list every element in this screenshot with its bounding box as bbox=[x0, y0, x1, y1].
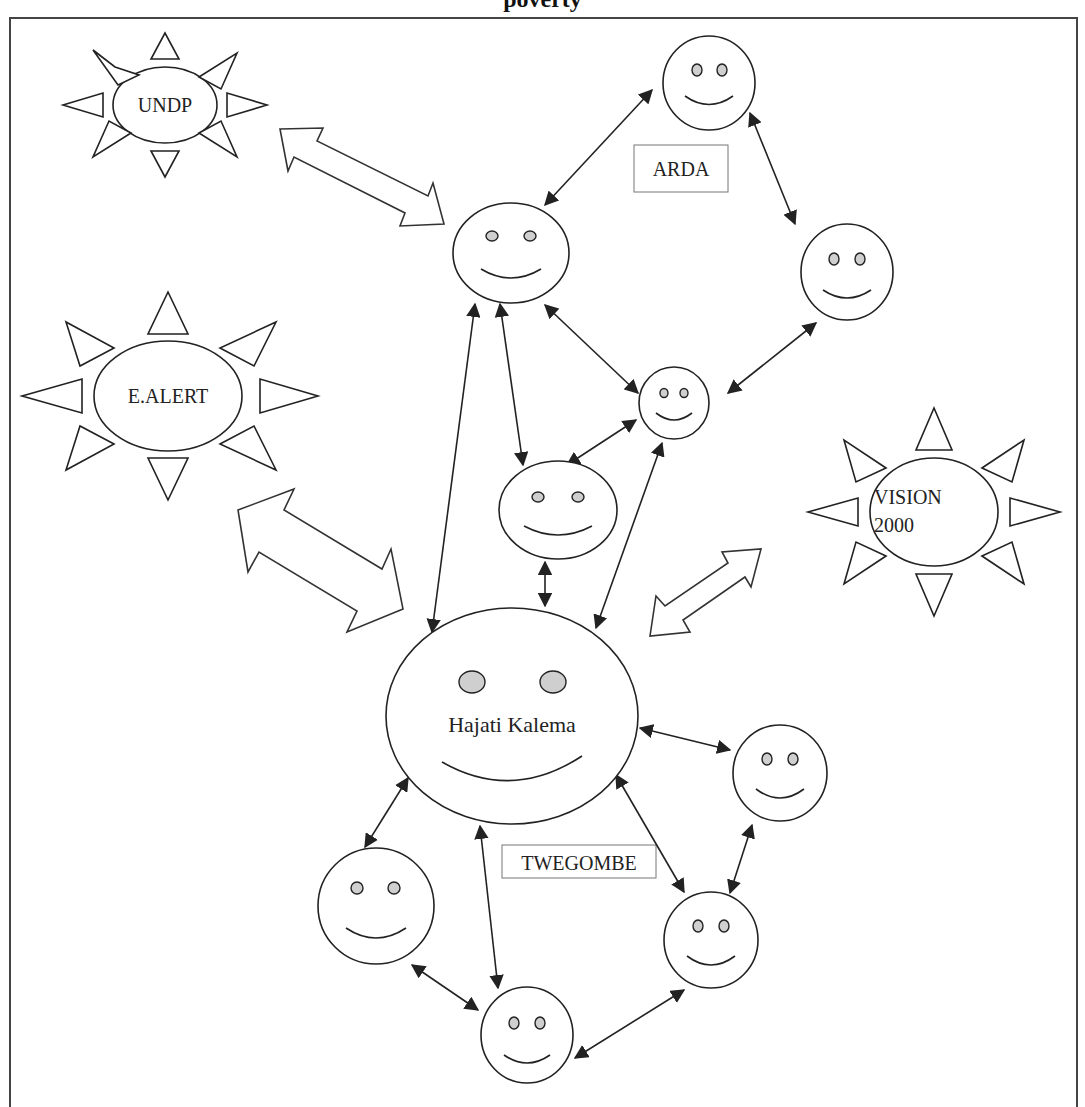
person-twegombe-bottom bbox=[481, 987, 573, 1083]
e-alert-sun: E.ALERT bbox=[22, 292, 318, 500]
central-person-name: Hajati Kalema bbox=[448, 712, 576, 737]
person-arda-left bbox=[453, 203, 569, 303]
svg-text:TWEGOMBE: TWEGOMBE bbox=[521, 852, 637, 874]
person-arda-top bbox=[663, 36, 755, 130]
person-twegombe-left bbox=[318, 848, 434, 964]
person-arda-right bbox=[801, 224, 893, 320]
person-twegombe-right-bottom bbox=[664, 892, 758, 988]
vision-link-arrow bbox=[650, 549, 761, 636]
undp-sun: UNDP bbox=[63, 33, 267, 177]
person-small-center bbox=[639, 367, 709, 439]
svg-text:ARDA: ARDA bbox=[653, 158, 710, 180]
e-alert-link-arrow bbox=[238, 489, 403, 632]
vision-label-line2: 2000 bbox=[874, 514, 914, 536]
twegombe-label-box: TWEGOMBE bbox=[502, 845, 656, 878]
person-twegombe-right-top bbox=[733, 725, 827, 821]
person-middle bbox=[499, 461, 617, 559]
undp-link-arrow bbox=[280, 128, 444, 226]
arda-label-box: ARDA bbox=[634, 145, 728, 192]
e-alert-label: E.ALERT bbox=[128, 385, 208, 407]
undp-label: UNDP bbox=[138, 94, 192, 116]
central-person: Hajati Kalema bbox=[386, 608, 638, 824]
vision-label-line1: VISION bbox=[874, 486, 942, 508]
vision-2000-sun: VISION 2000 bbox=[808, 408, 1060, 616]
